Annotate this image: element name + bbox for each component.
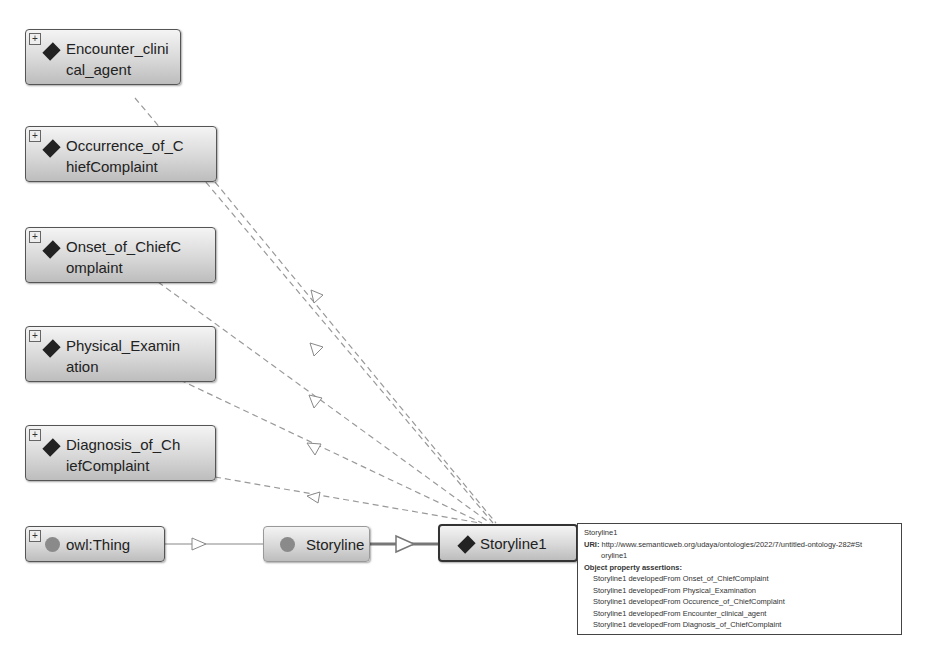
assertion-item: Storyline1 developedFrom Occurence_of_Ch…	[584, 596, 895, 608]
assertion-item: Storyline1 developedFrom Encounter_clini…	[584, 608, 895, 620]
assertion-item: Storyline1 developedFrom Diagnosis_of_Ch…	[584, 619, 895, 631]
edge-occurrence	[215, 182, 496, 523]
tooltip-title: Storyline1	[584, 527, 895, 539]
edge-diagnosis	[215, 477, 480, 523]
tooltip-section-title: Object property assertions:	[584, 562, 895, 574]
expand-icon[interactable]: +	[29, 330, 41, 342]
expand-icon[interactable]: +	[29, 231, 41, 243]
assertion-item: Storyline1 developedFrom Physical_Examin…	[584, 585, 895, 597]
circle-icon	[45, 537, 60, 552]
assertion-item: Storyline1 developedFrom Onset_of_ChiefC…	[584, 573, 895, 585]
expand-icon[interactable]: +	[29, 530, 41, 542]
tooltip-uri-cont: oryline1	[584, 550, 895, 562]
node-label: Encounter_clinical_agent	[66, 38, 174, 80]
node-physical-examination[interactable]: + Physical_Examination	[25, 326, 216, 382]
node-label: Onset_of_ChiefComplaint	[66, 236, 209, 278]
diamond-icon	[42, 339, 60, 357]
node-occurrence-of-chiefcomplaint[interactable]: + Occurrence_of_ChiefComplaint	[25, 126, 217, 182]
node-label: Diagnosis_of_ChiefComplaint	[66, 434, 209, 476]
arrow-storyline-storyline1	[396, 536, 414, 552]
arrow-onset	[309, 395, 322, 408]
node-label: Storyline1	[480, 533, 570, 554]
node-label: Storyline	[306, 534, 363, 555]
edge-onset	[158, 282, 490, 523]
diamond-icon	[42, 438, 60, 456]
arrow-physical	[307, 443, 321, 455]
circle-icon	[280, 537, 295, 552]
node-label: Physical_Examination	[66, 335, 209, 377]
node-diagnosis-of-chiefcomplaint[interactable]: + Diagnosis_of_ChiefComplaint	[25, 425, 216, 481]
node-storyline[interactable]: Storyline	[263, 526, 370, 562]
node-label: owl:Thing	[66, 534, 158, 555]
expand-icon[interactable]: +	[29, 33, 41, 45]
edge-physical	[180, 380, 482, 523]
node-label: Occurrence_of_ChiefComplaint	[66, 135, 210, 177]
node-encounter-clinical-agent[interactable]: + Encounter_clinical_agent	[25, 29, 181, 85]
arrow-occurrence	[310, 343, 323, 356]
expand-icon[interactable]: +	[29, 429, 41, 441]
diamond-icon	[457, 535, 475, 553]
node-onset-of-chiefcomplaint[interactable]: + Onset_of_ChiefComplaint	[25, 227, 216, 283]
arrow-thing-storyline	[192, 538, 206, 550]
tooltip-uri: URI: http://www.semanticweb.org/udaya/on…	[584, 539, 895, 551]
node-storyline1[interactable]: Storyline1	[438, 524, 578, 562]
individual-tooltip: Storyline1 URI: http://www.semanticweb.o…	[577, 523, 902, 635]
expand-icon[interactable]: +	[29, 130, 41, 142]
diamond-icon	[42, 240, 60, 258]
diamond-icon	[42, 139, 60, 157]
diamond-icon	[42, 42, 60, 60]
node-owl-thing[interactable]: + owl:Thing	[25, 526, 165, 562]
